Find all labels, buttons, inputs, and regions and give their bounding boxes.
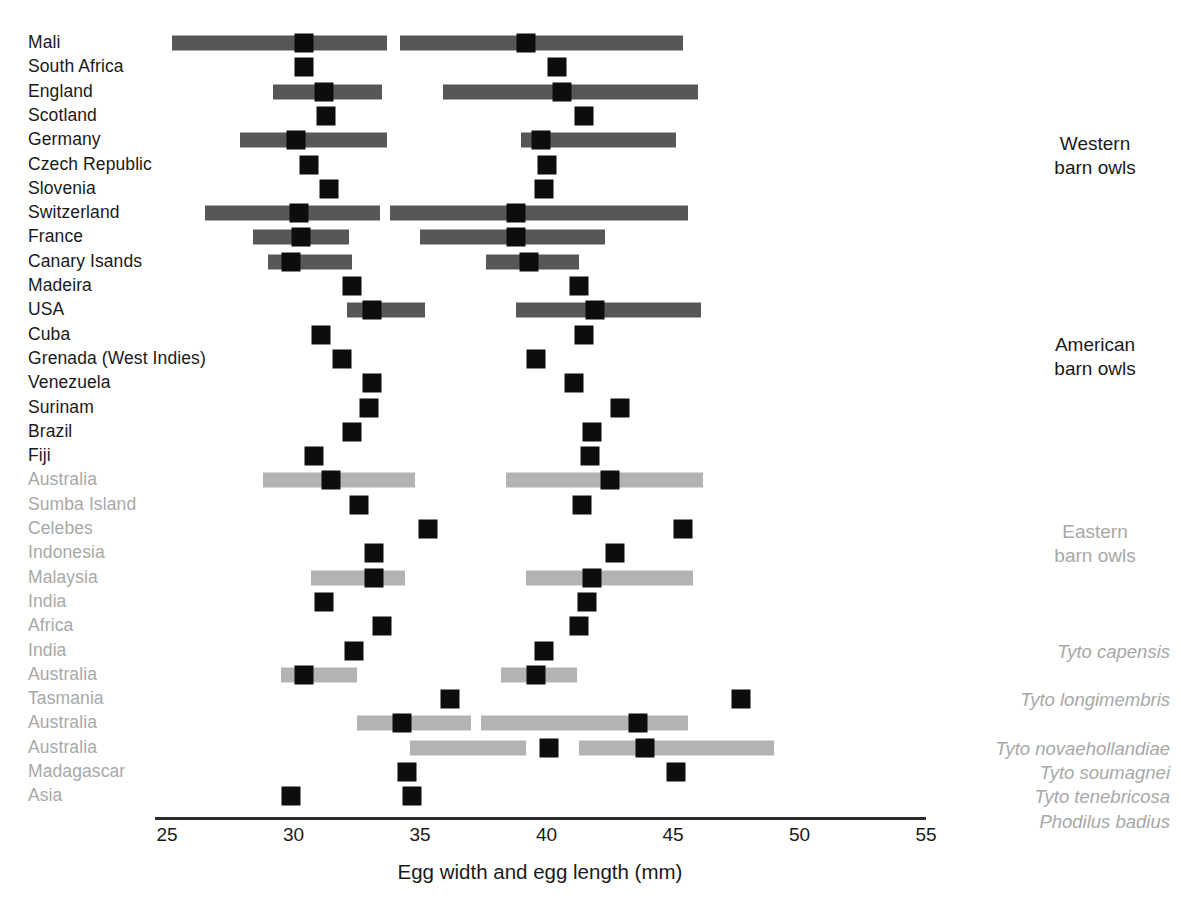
width-mean-marker [281,787,300,806]
egg-size-chart: MaliSouth AfricaEnglandScotlandGermanyCz… [0,0,1181,901]
width-mean-marker [304,447,323,466]
width-mean-marker [342,422,361,441]
length-mean-marker [585,301,604,320]
length-mean-marker [527,349,546,368]
width-mean-marker [294,665,313,684]
length-mean-marker [583,422,602,441]
width-range-bar [172,36,387,51]
length-mean-marker [666,763,685,782]
width-mean-marker [345,641,364,660]
length-mean-marker [565,374,584,393]
width-mean-marker [332,349,351,368]
group-label: Eastern barn owls [1010,520,1180,568]
length-mean-marker [575,325,594,344]
width-mean-marker [398,763,417,782]
width-mean-marker [350,495,369,514]
width-mean-marker [393,714,412,733]
width-range-bar [357,716,471,731]
length-mean-marker [570,617,589,636]
length-mean-marker [577,592,596,611]
length-range-bar [526,570,693,585]
length-mean-marker [605,544,624,563]
width-mean-marker [362,374,381,393]
width-mean-marker [289,204,308,223]
length-range-bar [390,206,689,221]
width-range-bar [410,740,526,755]
width-mean-marker [540,738,559,757]
plot-area [0,0,1181,820]
length-mean-marker [636,738,655,757]
width-range-bar [281,667,357,682]
length-mean-marker [527,665,546,684]
length-mean-marker [547,58,566,77]
length-mean-marker [507,228,526,247]
width-mean-marker [294,58,313,77]
x-tick-label: 45 [662,824,683,846]
length-range-bar [481,716,688,731]
species-label: Tyto soumagnei [1040,762,1170,784]
width-range-bar [311,570,405,585]
length-mean-marker [517,34,536,53]
width-mean-marker [365,544,384,563]
length-mean-marker [628,714,647,733]
width-mean-marker [441,690,460,709]
length-range-bar [400,36,683,51]
length-mean-marker [532,131,551,150]
length-mean-marker [674,520,693,539]
width-mean-marker [365,568,384,587]
width-mean-marker [299,155,318,174]
width-mean-marker [287,131,306,150]
group-label: Western barn owls [1010,132,1180,180]
width-range-bar [347,303,425,318]
x-axis-line [155,817,926,820]
x-tick-label: 50 [789,824,810,846]
length-mean-marker [534,641,553,660]
x-tick-label: 35 [409,824,430,846]
width-mean-marker [362,301,381,320]
species-label: Tyto tenebricosa [1035,786,1170,808]
length-mean-marker [534,179,553,198]
length-mean-marker [552,82,571,101]
width-range-bar [240,133,387,148]
width-mean-marker [314,592,333,611]
width-mean-marker [312,325,331,344]
width-mean-marker [373,617,392,636]
species-label: Tyto novaehollandiae [995,738,1170,760]
x-tick-label: 25 [156,824,177,846]
length-mean-marker [580,447,599,466]
x-tick-label: 40 [536,824,557,846]
length-mean-marker [600,471,619,490]
length-mean-marker [575,106,594,125]
width-mean-marker [319,179,338,198]
group-label: American barn owls [1010,333,1180,381]
width-mean-marker [342,277,361,296]
length-mean-marker [583,568,602,587]
species-label: Phodilus badius [1039,811,1170,833]
width-mean-marker [314,82,333,101]
species-label: Tyto longimembris [1020,689,1170,711]
width-mean-marker [292,228,311,247]
width-mean-marker [317,106,336,125]
x-axis-title: Egg width and egg length (mm) [0,860,1080,884]
length-mean-marker [732,690,751,709]
x-tick-label: 55 [915,824,936,846]
length-mean-marker [572,495,591,514]
length-mean-marker [507,204,526,223]
width-mean-marker [322,471,341,490]
length-mean-marker [570,277,589,296]
width-mean-marker [281,252,300,271]
length-mean-marker [403,787,422,806]
species-label: Tyto capensis [1057,641,1170,663]
length-mean-marker [537,155,556,174]
width-mean-marker [418,520,437,539]
length-mean-marker [519,252,538,271]
width-mean-marker [294,34,313,53]
x-tick-label: 30 [283,824,304,846]
length-mean-marker [610,398,629,417]
width-mean-marker [360,398,379,417]
length-range-bar [516,303,701,318]
length-range-bar [579,740,774,755]
